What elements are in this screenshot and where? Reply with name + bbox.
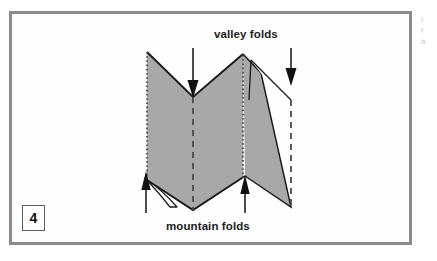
mountain-folds-label: mountain folds bbox=[166, 220, 250, 232]
step-number-badge: 4 bbox=[22, 205, 45, 231]
illustration-frame-inner-border bbox=[12, 14, 409, 242]
diagram-page: valley folds mountain folds 4 t f a bbox=[0, 0, 437, 261]
margin-notes: t f a bbox=[421, 14, 437, 60]
margin-note-line-2: f bbox=[421, 25, 437, 36]
margin-note-line-1: t bbox=[421, 14, 437, 25]
valley-folds-label: valley folds bbox=[214, 28, 278, 40]
margin-note-line-3: a bbox=[421, 36, 437, 47]
step-number-value: 4 bbox=[30, 211, 38, 225]
illustration-frame bbox=[9, 11, 412, 245]
